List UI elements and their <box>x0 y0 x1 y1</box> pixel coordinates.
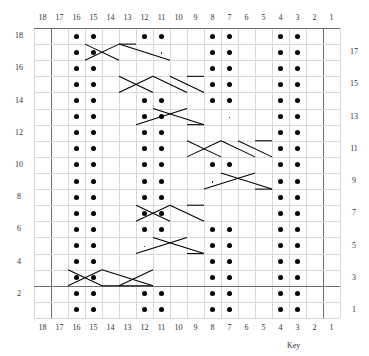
row-label-left-2: 2 <box>10 290 28 298</box>
column-label-bottom-5: 5 <box>256 324 272 332</box>
grid-vline <box>340 28 341 318</box>
row-label-left-12: 12 <box>10 129 28 137</box>
row-label-left-10: 10 <box>10 161 28 169</box>
column-label-top-7: 7 <box>222 14 238 22</box>
column-label-top-17: 17 <box>52 14 68 22</box>
row-label-right-15: 15 <box>345 80 363 88</box>
column-label-top-15: 15 <box>86 14 102 22</box>
row-label-left-8: 8 <box>10 193 28 201</box>
column-label-top-8: 8 <box>205 14 221 22</box>
column-label-top-6: 6 <box>239 14 255 22</box>
column-label-bottom-14: 14 <box>103 324 119 332</box>
column-label-bottom-8: 8 <box>205 324 221 332</box>
column-label-bottom-16: 16 <box>69 324 85 332</box>
key-label: Key <box>287 341 300 350</box>
cable-line-travel <box>153 76 187 92</box>
column-label-top-4: 4 <box>273 14 289 22</box>
column-label-bottom-15: 15 <box>86 324 102 332</box>
column-label-bottom-18: 18 <box>35 324 51 332</box>
column-label-top-12: 12 <box>137 14 153 22</box>
column-label-top-9: 9 <box>188 14 204 22</box>
row-label-right-9: 9 <box>345 177 363 185</box>
row-label-right-5: 5 <box>345 242 363 250</box>
row-label-right-13: 13 <box>345 113 363 121</box>
column-label-bottom-13: 13 <box>120 324 136 332</box>
column-label-bottom-12: 12 <box>137 324 153 332</box>
column-label-top-13: 13 <box>120 14 136 22</box>
column-label-top-11: 11 <box>154 14 170 22</box>
cable-line-travel <box>119 44 170 60</box>
column-label-bottom-7: 7 <box>222 324 238 332</box>
column-label-top-5: 5 <box>256 14 272 22</box>
row-label-right-17: 17 <box>345 48 363 56</box>
column-label-bottom-6: 6 <box>239 324 255 332</box>
row-label-left-18: 18 <box>10 32 28 40</box>
column-label-top-2: 2 <box>307 14 323 22</box>
cable-line-travel <box>170 205 204 221</box>
column-label-bottom-2: 2 <box>307 324 323 332</box>
column-label-top-10: 10 <box>171 14 187 22</box>
grid-hline <box>34 318 340 319</box>
column-label-top-1: 1 <box>324 14 340 22</box>
column-label-top-18: 18 <box>35 14 51 22</box>
row-label-right-11: 11 <box>345 145 363 153</box>
cable-line-travel <box>221 141 255 157</box>
column-label-bottom-10: 10 <box>171 324 187 332</box>
column-label-bottom-17: 17 <box>52 324 68 332</box>
knitting-chart: 181716151413121110987654321 181716151413… <box>0 0 369 356</box>
cable-line-travel <box>238 141 272 157</box>
column-label-bottom-3: 3 <box>290 324 306 332</box>
row-label-left-14: 14 <box>10 97 28 105</box>
cable-line-travel <box>102 270 153 286</box>
column-label-top-14: 14 <box>103 14 119 22</box>
cable-line-travel <box>119 270 153 286</box>
column-label-bottom-1: 1 <box>324 324 340 332</box>
row-label-right-7: 7 <box>345 209 363 217</box>
column-label-top-16: 16 <box>69 14 85 22</box>
column-label-top-3: 3 <box>290 14 306 22</box>
row-label-left-6: 6 <box>10 225 28 233</box>
row-label-left-4: 4 <box>10 258 28 266</box>
row-label-right-3: 3 <box>345 274 363 282</box>
column-label-bottom-11: 11 <box>154 324 170 332</box>
row-label-right-1: 1 <box>345 306 363 314</box>
chart-grid <box>34 28 340 318</box>
cable-crossing-lines <box>34 28 340 318</box>
column-label-bottom-9: 9 <box>188 324 204 332</box>
row-label-left-16: 16 <box>10 64 28 72</box>
cable-line-travel <box>170 76 204 92</box>
column-label-bottom-4: 4 <box>273 324 289 332</box>
